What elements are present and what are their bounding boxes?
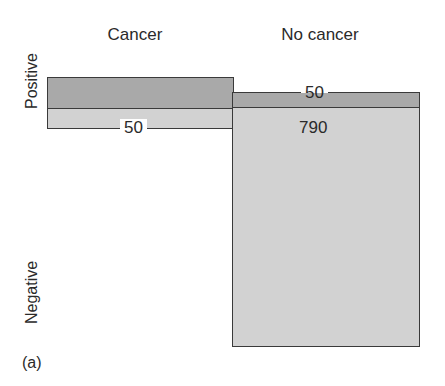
row-label-positive: Positive	[24, 53, 40, 109]
panel-label: (a)	[22, 355, 42, 371]
cell-cancer-positive	[47, 77, 234, 110]
column-label-cancer: Cancer	[90, 26, 180, 44]
value-no-cancer-negative: 790	[295, 119, 331, 137]
value-cancer-negative: 50	[120, 119, 147, 137]
row-label-negative: Negative	[24, 261, 40, 324]
cell-no-cancer-negative	[232, 107, 420, 347]
value-no-cancer-positive: 50	[301, 84, 328, 102]
column-label-no-cancer: No cancer	[268, 26, 372, 44]
